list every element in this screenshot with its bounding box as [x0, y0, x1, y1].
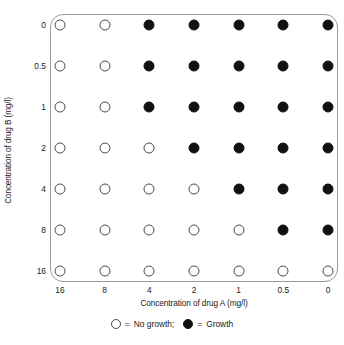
well-no-growth — [144, 266, 155, 277]
well-no-growth — [55, 266, 66, 277]
well-growth — [323, 184, 334, 195]
well-growth — [278, 143, 289, 154]
x-tick-label: 1 — [221, 285, 257, 296]
well-no-growth — [99, 184, 110, 195]
well-grid — [50, 14, 338, 282]
well-no-growth — [233, 266, 244, 277]
checkerboard-assay-figure: Concentration of drug B (mg/l) 00.512481… — [0, 0, 344, 345]
well-growth — [278, 20, 289, 31]
well-no-growth — [189, 184, 200, 195]
well-growth — [233, 61, 244, 72]
well-no-growth — [55, 225, 66, 236]
y-tick-label: 16 — [14, 266, 46, 276]
well-no-growth — [189, 266, 200, 277]
well-growth — [233, 102, 244, 113]
well-no-growth — [144, 143, 155, 154]
well-growth — [189, 20, 200, 31]
well-growth — [233, 184, 244, 195]
y-tick-label: 0.5 — [14, 61, 46, 71]
well-no-growth — [99, 20, 110, 31]
legend-label: Growth — [206, 318, 233, 330]
x-tick-label: 4 — [131, 285, 167, 296]
open-circle-icon — [111, 319, 121, 329]
y-tick-label: 1 — [14, 102, 46, 112]
well-no-growth — [55, 102, 66, 113]
legend-entry: =Growth — [183, 318, 233, 330]
y-tick-label: 0 — [14, 20, 46, 30]
well-growth — [323, 61, 334, 72]
legend-label: No growth; — [134, 318, 175, 330]
y-tick-label: 4 — [14, 184, 46, 194]
well-growth — [278, 61, 289, 72]
well-growth — [323, 102, 334, 113]
well-no-growth — [55, 61, 66, 72]
legend-separator: = — [125, 318, 130, 330]
well-no-growth — [144, 225, 155, 236]
well-no-growth — [55, 20, 66, 31]
well-growth — [278, 184, 289, 195]
well-growth — [278, 225, 289, 236]
well-growth — [233, 143, 244, 154]
x-tick-label: 0.5 — [265, 285, 301, 296]
y-tick-label: 8 — [14, 225, 46, 235]
well-no-growth — [144, 184, 155, 195]
well-growth — [189, 61, 200, 72]
well-no-growth — [99, 102, 110, 113]
well-growth — [233, 20, 244, 31]
well-no-growth — [323, 266, 334, 277]
well-no-growth — [189, 225, 200, 236]
well-growth — [144, 61, 155, 72]
filled-circle-icon — [183, 319, 193, 329]
well-growth — [189, 102, 200, 113]
well-no-growth — [233, 225, 244, 236]
well-growth — [144, 102, 155, 113]
well-no-growth — [99, 143, 110, 154]
well-growth — [144, 20, 155, 31]
well-no-growth — [99, 61, 110, 72]
x-axis-tick-labels: 1684210.50 — [50, 285, 338, 296]
well-no-growth — [278, 266, 289, 277]
well-growth — [189, 143, 200, 154]
well-growth — [278, 102, 289, 113]
well-no-growth — [55, 143, 66, 154]
legend-entry: =No growth; — [111, 318, 174, 330]
x-tick-label: 8 — [87, 285, 123, 296]
well-no-growth — [55, 184, 66, 195]
legend-separator: = — [197, 318, 202, 330]
x-axis-title: Concentration of drug A (mg/l) — [50, 297, 338, 309]
well-no-growth — [99, 266, 110, 277]
well-growth — [323, 20, 334, 31]
x-tick-label: 16 — [42, 285, 78, 296]
y-tick-label: 2 — [14, 143, 46, 153]
x-tick-label: 0 — [310, 285, 344, 296]
legend: =No growth;=Growth — [0, 317, 344, 331]
y-axis-tick-labels: 00.5124816 — [14, 14, 46, 282]
well-growth — [323, 143, 334, 154]
well-no-growth — [99, 225, 110, 236]
x-tick-label: 2 — [176, 285, 212, 296]
well-growth — [323, 225, 334, 236]
